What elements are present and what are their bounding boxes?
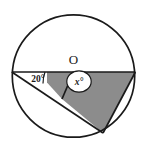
- center-label: O: [69, 52, 78, 67]
- angle-20-label: 20°: [31, 74, 45, 84]
- geometry-canvas: O 20° x°: [0, 0, 143, 148]
- angle-x-label: x°: [74, 77, 84, 87]
- geometry-figure: O 20° x°: [0, 0, 143, 148]
